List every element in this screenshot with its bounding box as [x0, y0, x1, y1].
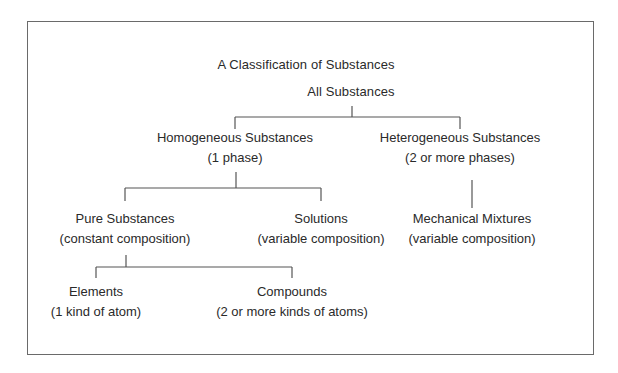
- node-pure-substances: Pure Substances (constant composition): [60, 209, 191, 249]
- node-elements: Elements (1 kind of atom): [51, 282, 141, 322]
- node-name: Solutions: [257, 209, 384, 229]
- node-note: (constant composition): [60, 229, 191, 249]
- node-note: (variable composition): [408, 229, 535, 249]
- node-note: (1 kind of atom): [51, 302, 141, 322]
- node-name: Pure Substances: [60, 209, 191, 229]
- node-solutions: Solutions (variable composition): [257, 209, 384, 249]
- node-note: (variable composition): [257, 229, 384, 249]
- node-note: (1 phase): [157, 148, 313, 168]
- node-note: (2 or more kinds of atoms): [216, 302, 368, 322]
- node-mechanical-mixtures: Mechanical Mixtures (variable compositio…: [408, 209, 535, 249]
- node-name: Elements: [51, 282, 141, 302]
- node-all-substances: All Substances: [307, 84, 394, 100]
- node-note: (2 or more phases): [380, 148, 540, 168]
- node-homogeneous-substances: Homogeneous Substances (1 phase): [157, 128, 313, 168]
- node-name: Mechanical Mixtures: [408, 209, 535, 229]
- node-compounds: Compounds (2 or more kinds of atoms): [216, 282, 368, 322]
- node-name: Homogeneous Substances: [157, 128, 313, 148]
- diagram-title: A Classification of Substances: [217, 57, 394, 73]
- node-heterogeneous-substances: Heterogeneous Substances (2 or more phas…: [380, 128, 540, 168]
- node-name: Heterogeneous Substances: [380, 128, 540, 148]
- node-name: Compounds: [216, 282, 368, 302]
